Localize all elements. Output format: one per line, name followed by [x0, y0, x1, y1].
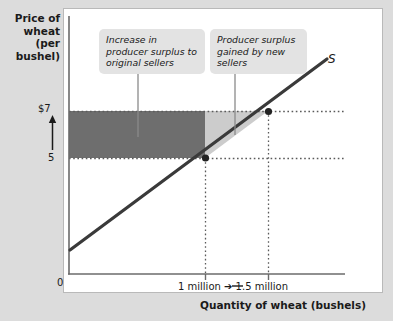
x-axis-title: Quantity of wheat (bushels)	[180, 299, 386, 311]
y-axis-title: Price of wheat (per bushel)	[0, 12, 60, 62]
callout-new-sellers: Producer surplus gained by new sellers	[210, 29, 307, 74]
price-high-label: $7	[38, 103, 51, 114]
price-low-label: 5	[48, 152, 54, 163]
y-axis-title-line-3: (per bushel)	[0, 37, 60, 62]
region-new-sellers	[205, 111, 268, 158]
y-axis-title-line-2: wheat	[0, 25, 60, 38]
point-new-equilibrium	[265, 108, 272, 115]
supply-curve-label: S	[328, 52, 336, 66]
callout-original-sellers: Increase in producer surplus to original…	[99, 29, 205, 74]
price-increase-arrow-head	[49, 115, 56, 123]
quantity-range-label: 1 million ➔ 1.5 million	[178, 281, 288, 292]
point-original-equilibrium	[202, 154, 209, 161]
origin-label: 0	[57, 277, 63, 288]
y-axis-title-line-1: Price of	[0, 12, 60, 25]
figure-container: Price of wheat (per bushel) Quantity of …	[0, 0, 393, 321]
region-original-sellers	[69, 111, 205, 158]
